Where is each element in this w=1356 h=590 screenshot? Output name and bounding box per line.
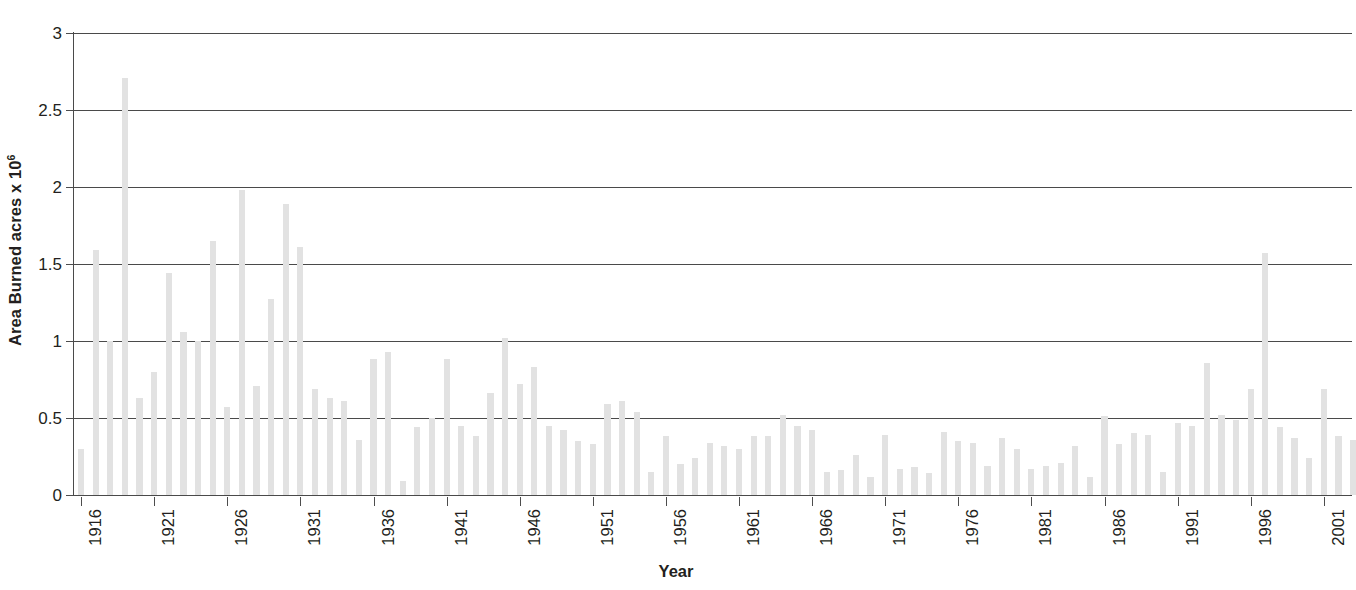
bar	[210, 241, 216, 495]
bar	[1306, 458, 1312, 495]
bar	[751, 436, 757, 495]
x-axis-line	[73, 495, 1352, 496]
bar	[1145, 435, 1151, 495]
bar	[1248, 389, 1254, 495]
x-axis-tick-label: 1956	[672, 509, 689, 569]
bar	[1101, 416, 1107, 495]
x-axis-tick-label: 1916	[87, 509, 104, 569]
bar	[356, 440, 362, 495]
gridline	[73, 33, 1352, 34]
bar	[1014, 449, 1020, 495]
x-axis-tick-label: 2001	[1330, 509, 1347, 569]
bar	[999, 438, 1005, 495]
bar	[780, 415, 786, 495]
x-axis-tick-label: 1931	[306, 509, 323, 569]
x-axis-tick-mark	[300, 497, 301, 506]
bar	[677, 464, 683, 495]
bar	[838, 470, 844, 495]
bar	[297, 247, 303, 495]
bar	[370, 359, 376, 495]
bar	[867, 477, 873, 495]
bar	[663, 436, 669, 495]
bar	[195, 341, 201, 495]
bar	[1233, 420, 1239, 495]
plot-area	[73, 33, 1352, 495]
bar	[1218, 415, 1224, 495]
x-axis-tick-label: 1986	[1111, 509, 1128, 569]
x-axis-tick-mark	[374, 497, 375, 506]
bar	[882, 435, 888, 495]
bar	[487, 393, 493, 495]
x-axis-tick-mark	[739, 497, 740, 506]
bar	[1175, 423, 1181, 495]
bar	[970, 443, 976, 495]
x-axis-tick-mark	[958, 497, 959, 506]
bar	[1291, 438, 1297, 495]
y-axis-tick-label: 2	[18, 179, 62, 196]
x-axis-tick-label: 1941	[453, 509, 470, 569]
bar	[1350, 440, 1356, 495]
bar	[897, 469, 903, 495]
gridline	[73, 187, 1352, 188]
y-axis-line	[73, 32, 74, 496]
bar	[166, 273, 172, 495]
bar	[1131, 433, 1137, 495]
x-axis-tick-mark	[447, 497, 448, 506]
bar	[1087, 477, 1093, 495]
bar	[93, 250, 99, 495]
bar	[1116, 444, 1122, 495]
bar	[78, 449, 84, 495]
gridline	[73, 341, 1352, 342]
y-axis-tick-label: 0	[18, 487, 62, 504]
x-axis-tick-mark	[154, 497, 155, 506]
bar	[575, 441, 581, 495]
bar	[1058, 463, 1064, 495]
bar	[955, 441, 961, 495]
bar	[180, 332, 186, 495]
x-axis-tick-label: 1966	[818, 509, 835, 569]
bar	[122, 78, 128, 495]
bar	[590, 444, 596, 495]
bar	[283, 204, 289, 495]
x-axis-tick-label: 1971	[891, 509, 908, 569]
x-axis-tick-mark	[812, 497, 813, 506]
bar	[1160, 472, 1166, 495]
bar	[824, 472, 830, 495]
bar	[312, 389, 318, 495]
x-axis-tick-label: 1936	[380, 509, 397, 569]
bar	[531, 367, 537, 495]
bar	[268, 299, 274, 495]
gridline	[73, 264, 1352, 265]
x-axis-tick-mark	[520, 497, 521, 506]
x-axis-tick-mark	[1251, 497, 1252, 506]
bar	[1204, 363, 1210, 495]
x-axis-tick-label: 1946	[526, 509, 543, 569]
bar	[1277, 427, 1283, 495]
bar	[400, 481, 406, 495]
bar	[429, 418, 435, 495]
x-axis-tick-mark	[1105, 497, 1106, 506]
x-axis-title: Year	[0, 562, 1352, 581]
bar	[1043, 466, 1049, 495]
bar	[517, 384, 523, 495]
bar	[560, 430, 566, 495]
bar	[473, 436, 479, 495]
bar	[926, 473, 932, 495]
bar	[911, 467, 917, 495]
x-axis-tick-mark	[885, 497, 886, 506]
bar	[385, 352, 391, 495]
x-axis-tick-mark	[666, 497, 667, 506]
bar	[1335, 436, 1341, 495]
bar	[619, 401, 625, 495]
x-axis-tick-mark	[1178, 497, 1179, 506]
x-axis-tick-mark	[81, 497, 82, 506]
bar	[1321, 389, 1327, 495]
bar	[151, 372, 157, 495]
bar	[707, 443, 713, 495]
bar	[341, 401, 347, 495]
bar	[224, 407, 230, 495]
bar	[239, 190, 245, 495]
x-axis-tick-label: 1961	[745, 509, 762, 569]
y-axis-tick-label: 1.5	[18, 256, 62, 273]
